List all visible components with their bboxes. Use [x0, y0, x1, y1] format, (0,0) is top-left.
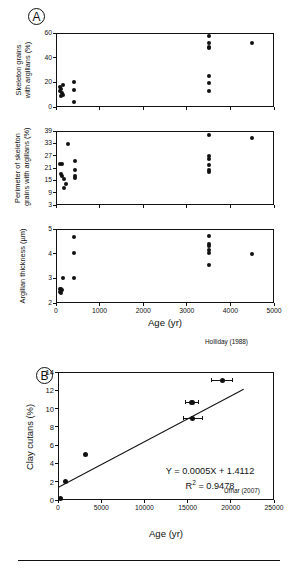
data-point [207, 163, 211, 167]
x-tick-mark [187, 500, 188, 503]
x-tick-mark [274, 205, 275, 208]
x-tick-mark [230, 107, 231, 110]
y-tick-label: 4 [30, 459, 54, 468]
y-tick-mark [53, 192, 56, 193]
x-tick-label: 1000 [84, 307, 116, 314]
y-tick-label: 27 [28, 152, 52, 159]
y-tick-label: 3 [28, 201, 52, 208]
x-tick-mark [230, 205, 231, 208]
x-tick-mark [144, 500, 145, 503]
y-tick-mark [53, 82, 56, 83]
x-tick-label: 5000 [258, 307, 290, 314]
plot-a2-frame [56, 131, 274, 205]
x-tick-label: 0 [40, 307, 72, 314]
plot-a1-y-axis-label-line1: Skeleton grains [14, 33, 23, 107]
error-bar-cap [185, 400, 186, 404]
x-tick-label: 25000 [258, 504, 290, 511]
x-tick-mark [230, 500, 231, 503]
y-tick-label: 20 [28, 78, 52, 85]
error-bar-cap [198, 400, 199, 404]
panel-a-x-axis-label: Age (yr) [115, 317, 215, 328]
data-point [207, 157, 211, 161]
x-tick-label: 5000 [85, 504, 117, 511]
y-tick-mark [53, 33, 56, 34]
y-tick-label: 40 [28, 54, 52, 61]
panel-b-x-axis-label: Age (yr) [116, 528, 216, 539]
x-tick-mark [99, 107, 100, 110]
y-tick-label: 21 [28, 164, 52, 171]
data-point [189, 400, 194, 405]
y-tick-label: 0 [28, 103, 52, 110]
data-point [60, 162, 64, 166]
data-point [207, 89, 211, 93]
x-tick-label: 15000 [172, 504, 204, 511]
data-point [207, 81, 211, 85]
x-tick-label: 20000 [215, 504, 247, 511]
x-tick-mark [56, 107, 57, 110]
data-point [207, 133, 211, 137]
x-tick-mark [274, 107, 275, 110]
y-tick-label: 12 [30, 386, 54, 395]
plot-a1-frame [56, 33, 274, 107]
x-tick-mark [99, 205, 100, 208]
plot-b-equation: Y = 0.0005X + 1.4112 [145, 466, 275, 476]
x-tick-label: 10000 [128, 504, 160, 511]
y-tick-label: 5 [28, 225, 52, 232]
y-tick-mark [55, 408, 58, 409]
panel-b-attribution: Ufnar (2007) [224, 487, 260, 494]
y-tick-label: 60 [28, 29, 52, 36]
x-tick-mark [56, 205, 57, 208]
x-tick-mark [143, 107, 144, 110]
plot-a1-y-axis-label-line2: with argillans (%) [23, 33, 32, 107]
x-tick-mark [101, 500, 102, 503]
y-tick-label: 2 [28, 299, 52, 306]
x-tick-mark [56, 303, 57, 306]
y-tick-mark [55, 390, 58, 391]
plot-a2-y-axis-label-line1: Perimeter of skeleton [13, 130, 22, 206]
y-tick-label: 33 [28, 139, 52, 146]
y-tick-label: 9 [28, 189, 52, 196]
data-point [62, 186, 66, 190]
y-tick-mark [53, 143, 56, 144]
plot-a3-y-axis-label-line1: Argillan thickness (µm) [18, 228, 27, 304]
y-tick-mark [55, 372, 58, 373]
data-point [58, 496, 63, 501]
y-tick-label: 14 [30, 368, 54, 377]
y-tick-label: 39 [28, 127, 52, 134]
data-point [207, 251, 211, 255]
y-tick-label: 6 [30, 441, 54, 450]
y-tick-mark [55, 426, 58, 427]
y-tick-label: 15 [28, 176, 52, 183]
y-tick-mark [53, 131, 56, 132]
y-tick-mark [53, 229, 56, 230]
y-tick-label: 4 [28, 250, 52, 257]
y-tick-mark [53, 278, 56, 279]
y-tick-mark [55, 445, 58, 446]
x-tick-mark [186, 107, 187, 110]
data-point [207, 34, 211, 38]
data-point [207, 263, 211, 267]
panel-a-tag: A [28, 8, 45, 25]
data-point [250, 252, 254, 256]
x-tick-mark [186, 205, 187, 208]
y-tick-mark [55, 463, 58, 464]
y-tick-mark [53, 180, 56, 181]
x-tick-mark [274, 303, 275, 306]
plot-a3-frame [56, 229, 274, 303]
x-tick-mark [230, 303, 231, 306]
y-tick-label: 2 [30, 478, 54, 487]
data-point [207, 74, 211, 78]
x-tick-label: 2000 [127, 307, 159, 314]
data-point [207, 234, 211, 238]
x-tick-mark [143, 205, 144, 208]
y-tick-mark [53, 253, 56, 254]
y-tick-mark [53, 168, 56, 169]
data-point [62, 177, 66, 181]
x-tick-label: 0 [42, 504, 74, 511]
figure-root: A Skeleton grains with argillans (%) 020… [0, 0, 299, 568]
error-bar-cap [211, 378, 212, 382]
y-tick-mark [53, 57, 56, 58]
x-tick-mark [99, 303, 100, 306]
y-tick-mark [55, 481, 58, 482]
y-tick-mark [53, 155, 56, 156]
